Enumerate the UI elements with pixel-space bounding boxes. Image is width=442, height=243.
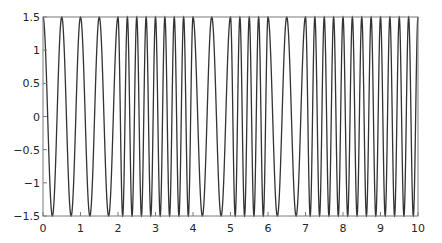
x-tick-label: 7: [302, 222, 309, 235]
y-tick-label: −0.5: [13, 144, 40, 157]
y-tick-label: 0: [33, 111, 40, 124]
x-tick-label: 9: [377, 222, 384, 235]
plot-area: [43, 17, 418, 216]
x-tick-label: 3: [152, 222, 159, 235]
y-tick-label: 1.5: [23, 11, 41, 24]
chart: 012345678910 1.510.50−0.5−1−1.5: [0, 0, 442, 243]
plot-background: [43, 17, 418, 216]
y-tick-label: −1.5: [13, 210, 40, 223]
y-tick-label: 0.5: [23, 77, 41, 90]
x-tick-label: 8: [340, 222, 347, 235]
x-tick-label: 10: [411, 222, 425, 235]
x-tick-label: 2: [115, 222, 122, 235]
x-tick-label: 1: [77, 222, 84, 235]
y-tick-label: −1: [24, 177, 40, 190]
x-tick-label: 0: [40, 222, 47, 235]
x-tick-label: 5: [227, 222, 234, 235]
x-tick-label: 4: [190, 222, 197, 235]
x-tick-label: 6: [265, 222, 272, 235]
y-tick-label: 1: [33, 44, 40, 57]
y-axis: 1.510.50−0.5−1−1.5: [13, 11, 47, 223]
